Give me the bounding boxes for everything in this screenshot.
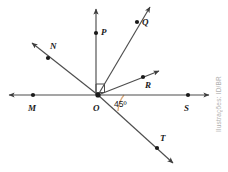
- point-O: [95, 92, 100, 97]
- point-label-S: S: [184, 104, 189, 113]
- point-label-T: T: [160, 134, 166, 143]
- ray-OT: [98, 95, 173, 163]
- point-N: [46, 56, 50, 60]
- point-Q: [135, 20, 139, 24]
- point-label-Q: Q: [142, 18, 149, 27]
- point-label-M: M: [28, 104, 36, 113]
- point-label-N: N: [50, 42, 57, 51]
- point-S: [186, 93, 190, 97]
- ray-ON: [32, 43, 98, 95]
- geometry-figure: [0, 0, 228, 172]
- angle-label-45: 45º: [114, 100, 127, 109]
- point-label-O: O: [93, 104, 100, 113]
- point-label-P: P: [101, 28, 107, 37]
- diagram-canvas: M N O P Q R S T 45º Ilustrações: ID/BR: [0, 0, 228, 172]
- point-label-R: R: [145, 81, 151, 90]
- point-M: [31, 93, 35, 97]
- point-T: [155, 146, 159, 150]
- illustration-credit: Ilustrações: ID/BR: [215, 52, 227, 132]
- point-R: [141, 75, 145, 79]
- point-P: [94, 31, 98, 35]
